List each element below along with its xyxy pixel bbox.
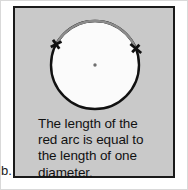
illustration-panel-inner: The length of the red arc is equal to th… (15, 8, 173, 176)
circle-center-point-icon (93, 63, 96, 66)
figure-root: The length of the red arc is equal to th… (0, 0, 188, 190)
figure-caption: The length of the red arc is equal to th… (38, 116, 168, 181)
circle-diagram (15, 8, 173, 118)
figure-label: b. (1, 164, 12, 178)
illustration-panel: The length of the red arc is equal to th… (13, 6, 175, 178)
